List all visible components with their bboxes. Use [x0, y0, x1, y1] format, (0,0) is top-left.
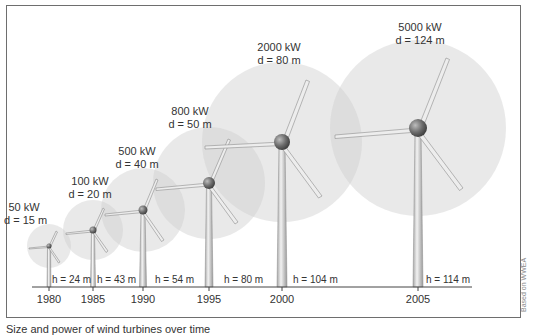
turbine-label-2005: 5000 kW d = 124 m [390, 21, 450, 47]
diameter-label: d = 50 m [165, 118, 215, 131]
height-label-1980: h = 24 m [52, 274, 91, 286]
year-label-2005: 2005 [406, 293, 430, 305]
power-label: 100 kW [67, 175, 113, 188]
power-label: 5000 kW [390, 21, 450, 34]
year-label-1985: 1985 [81, 293, 105, 305]
year-label-1990: 1990 [131, 293, 155, 305]
height-label-2005: h = 114 m [426, 274, 470, 286]
height-label-1990: h = 54 m [155, 274, 194, 286]
turbine-label-2000: 2000 kW d = 80 m [251, 41, 307, 67]
hub-2005 [409, 119, 427, 137]
height-label-1995: h = 80 m [224, 274, 263, 286]
tower-1995 [205, 183, 213, 287]
diameter-label: d = 80 m [251, 54, 307, 67]
height-label-1985: h = 43 m [97, 274, 136, 286]
turbine-label-1980: 50 kW d = 15 m [4, 201, 44, 227]
hub-1980 [47, 244, 52, 249]
year-label-1995: 1995 [197, 293, 221, 305]
year-label-2000: 2000 [270, 293, 294, 305]
year-label-1980: 1980 [37, 293, 61, 305]
diameter-label: d = 124 m [390, 34, 450, 47]
power-label: 2000 kW [251, 41, 307, 54]
turbine-label-1985: 100 kW d = 20 m [67, 175, 113, 201]
tower-1990 [140, 210, 147, 287]
power-label: 500 kW [112, 145, 162, 158]
diameter-label: d = 20 m [67, 188, 113, 201]
hub-1995 [203, 177, 215, 189]
tower-1980 [47, 246, 51, 287]
power-label: 50 kW [4, 201, 44, 214]
hub-1985 [90, 227, 97, 234]
tower-1985 [91, 230, 96, 287]
diameter-label: d = 15 m [4, 214, 44, 227]
tower-2000 [277, 142, 287, 287]
turbine-label-1990: 500 kW d = 40 m [112, 145, 162, 171]
time-axis [32, 287, 472, 291]
hub-1990 [139, 206, 148, 215]
diameter-label: d = 40 m [112, 158, 162, 171]
hub-2000 [274, 134, 290, 150]
figure-caption: Size and power of wind turbines over tim… [6, 322, 210, 336]
turbine-label-1995: 800 kW d = 50 m [165, 105, 215, 131]
source-credit: Based on WWEA [520, 258, 527, 312]
height-label-2000: h = 104 m [293, 274, 338, 286]
power-label: 800 kW [165, 105, 215, 118]
tower-2005 [413, 128, 423, 287]
